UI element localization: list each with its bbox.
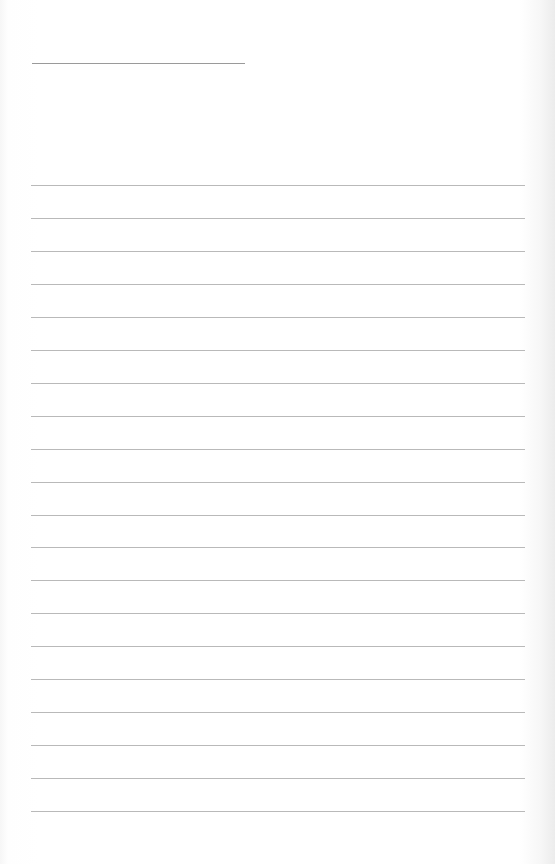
ruled-line bbox=[31, 284, 525, 285]
ruled-line bbox=[31, 251, 525, 252]
ruled-line bbox=[31, 679, 525, 680]
lined-paper-page bbox=[0, 0, 555, 864]
ruled-line bbox=[31, 317, 525, 318]
ruled-line bbox=[31, 547, 525, 548]
ruled-line bbox=[31, 745, 525, 746]
ruled-line bbox=[31, 580, 525, 581]
ruled-line bbox=[31, 449, 525, 450]
ruled-line bbox=[31, 416, 525, 417]
ruled-line bbox=[31, 778, 525, 779]
ruled-line bbox=[31, 482, 525, 483]
ruled-line bbox=[31, 218, 525, 219]
ruled-line bbox=[31, 712, 525, 713]
ruled-line bbox=[31, 515, 525, 516]
title-rule-line bbox=[32, 63, 245, 64]
ruled-line bbox=[31, 350, 525, 351]
ruled-line bbox=[31, 646, 525, 647]
ruled-line bbox=[31, 383, 525, 384]
ruled-line bbox=[31, 811, 525, 812]
ruled-line bbox=[31, 613, 525, 614]
ruled-line bbox=[31, 185, 525, 186]
